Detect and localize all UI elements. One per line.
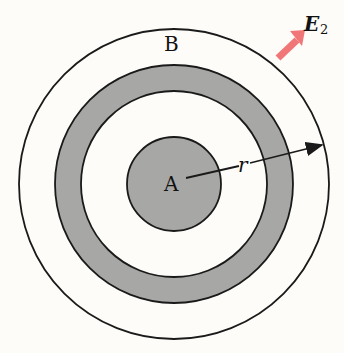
field-arrow-E2 <box>278 30 305 58</box>
label-E-subscript: 2 <box>320 22 328 37</box>
label-B: B <box>164 32 179 56</box>
label-r: r <box>238 153 249 177</box>
concentric-spheres-diagram: A B r E 2 <box>0 0 344 353</box>
label-A: A <box>163 172 179 196</box>
label-E: E <box>303 12 320 36</box>
